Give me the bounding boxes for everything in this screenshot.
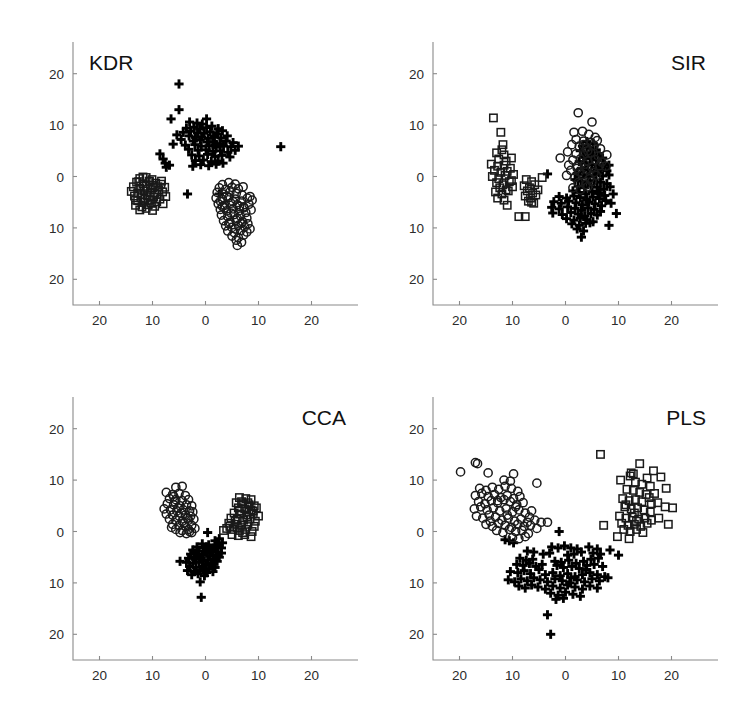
panel-title: PLS: [666, 406, 706, 429]
marker-circle: [564, 148, 572, 156]
marker-square: [600, 522, 607, 529]
x-tick-label: 0: [562, 668, 570, 683]
scatter-plot-figure: 201001020201001020KDR201001020201001020S…: [0, 0, 734, 714]
marker-square: [655, 514, 662, 521]
marker-circle: [574, 109, 582, 117]
series-plus: [175, 528, 227, 602]
marker-square: [614, 533, 621, 540]
x-tick-label: 10: [145, 313, 160, 328]
y-tick-label: 10: [409, 473, 424, 488]
y-tick-label: 20: [49, 67, 64, 82]
y-tick-label: 10: [49, 576, 64, 591]
panel-title: SIR: [671, 51, 706, 74]
axis-spine: [433, 397, 718, 660]
marker-square: [490, 114, 497, 121]
marker-square: [647, 483, 654, 490]
scatter-panel-pls: 201001020201001020PLS: [378, 375, 718, 705]
y-tick-label: 10: [49, 118, 64, 133]
x-tick-label: 20: [304, 668, 319, 683]
series-circle: [456, 459, 551, 543]
x-tick-label: 10: [505, 313, 520, 328]
marker-square: [665, 521, 672, 528]
marker-square: [497, 129, 504, 136]
series-square: [488, 114, 546, 220]
series-plus: [500, 527, 623, 639]
series-circle: [212, 179, 256, 250]
y-tick-label: 0: [56, 170, 64, 185]
x-tick-label: 10: [611, 668, 626, 683]
marker-square: [669, 504, 676, 511]
axis-spine: [73, 397, 358, 660]
x-tick-label: 0: [202, 313, 210, 328]
series-square: [597, 451, 676, 543]
x-tick-label: 10: [251, 313, 266, 328]
y-tick-label: 10: [409, 118, 424, 133]
x-tick-label: 10: [251, 668, 266, 683]
marker-circle: [533, 479, 541, 487]
y-tick-label: 10: [49, 221, 64, 236]
series-square: [128, 173, 170, 214]
scatter-panel-cca: 201001020201001020CCA: [18, 375, 358, 705]
y-tick-label: 20: [409, 67, 424, 82]
y-tick-label: 20: [409, 627, 424, 642]
y-tick-label: 20: [49, 627, 64, 642]
x-tick-label: 20: [664, 668, 679, 683]
axis-spine: [73, 42, 358, 305]
marker-square: [661, 503, 668, 510]
marker-circle: [456, 468, 464, 476]
x-tick-label: 0: [562, 313, 570, 328]
x-tick-label: 10: [145, 668, 160, 683]
x-tick-label: 20: [304, 313, 319, 328]
marker-circle: [588, 118, 596, 126]
panel-title: CCA: [302, 406, 346, 429]
x-tick-label: 20: [92, 668, 107, 683]
y-tick-label: 0: [56, 525, 64, 540]
series-square: [220, 494, 262, 540]
x-tick-label: 20: [452, 313, 467, 328]
x-tick-label: 0: [202, 668, 210, 683]
series-circle: [160, 482, 199, 537]
panel-title: KDR: [89, 51, 133, 74]
x-tick-label: 20: [452, 668, 467, 683]
marker-square: [636, 460, 643, 467]
marker-square: [625, 535, 632, 542]
y-tick-label: 20: [409, 272, 424, 287]
marker-square: [597, 451, 604, 458]
y-tick-label: 10: [49, 473, 64, 488]
marker-square: [650, 467, 657, 474]
marker-square: [657, 473, 664, 480]
marker-circle: [484, 469, 492, 477]
x-tick-label: 10: [505, 668, 520, 683]
y-tick-label: 10: [409, 576, 424, 591]
scatter-panel-kdr: 201001020201001020KDR: [18, 20, 358, 350]
marker-circle: [556, 154, 564, 162]
y-tick-label: 10: [409, 221, 424, 236]
marker-square: [617, 476, 624, 483]
y-tick-label: 0: [416, 525, 424, 540]
y-tick-label: 20: [49, 422, 64, 437]
marker-square: [663, 485, 670, 492]
x-tick-label: 10: [611, 313, 626, 328]
x-tick-label: 20: [92, 313, 107, 328]
y-tick-label: 20: [409, 422, 424, 437]
x-tick-label: 20: [664, 313, 679, 328]
y-tick-label: 0: [416, 170, 424, 185]
series-plus: [543, 137, 621, 242]
scatter-panel-sir: 201001020201001020SIR: [378, 20, 718, 350]
y-tick-label: 20: [49, 272, 64, 287]
